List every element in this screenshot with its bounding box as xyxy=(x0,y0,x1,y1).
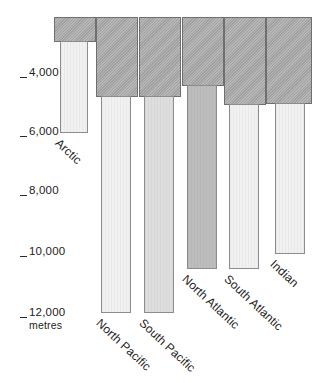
avg-depth-block-indian xyxy=(266,17,312,104)
avg-depth-block-south-atlantic xyxy=(224,17,266,105)
ocean-depth-chart: 4,000 6,000 8,000 10,000 12,000 metres A… xyxy=(0,0,320,383)
avg-depth-block-arctic xyxy=(54,17,96,42)
avg-depth-block-north-atlantic xyxy=(182,17,224,86)
bars-layer: Arctic North Pacific South Pacific North… xyxy=(0,0,320,383)
avg-depth-block-south-pacific xyxy=(139,17,181,97)
avg-depth-block-north-pacific xyxy=(96,17,138,97)
max-depth-bar-indian xyxy=(275,103,305,254)
category-label-indian: Indian xyxy=(267,257,301,290)
max-depth-bar-south-pacific xyxy=(144,96,174,313)
max-depth-bar-north-pacific xyxy=(101,96,131,313)
max-depth-bar-south-atlantic xyxy=(229,104,259,269)
max-depth-bar-north-atlantic xyxy=(187,85,217,269)
category-label-arctic: Arctic xyxy=(52,136,84,167)
max-depth-bar-arctic xyxy=(60,41,88,133)
